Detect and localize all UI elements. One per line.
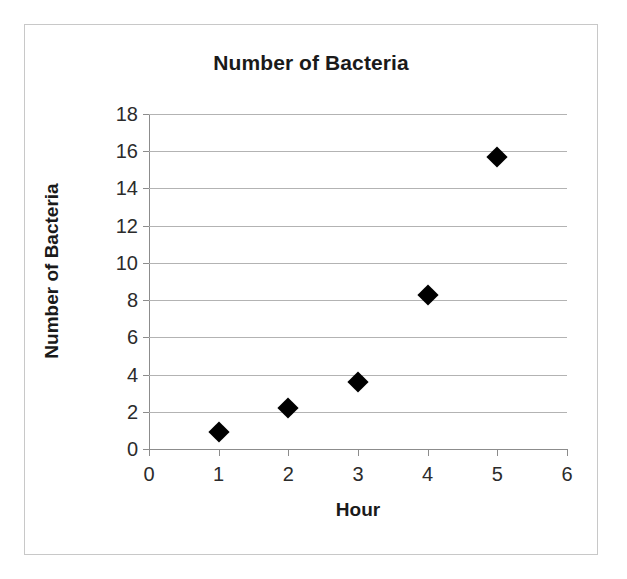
x-tick	[428, 449, 429, 456]
gridline	[149, 412, 567, 413]
y-tick	[143, 412, 149, 413]
y-tick-label: 10	[116, 251, 138, 274]
gridline	[149, 263, 567, 264]
gridline	[149, 300, 567, 301]
x-tick-label: 3	[352, 463, 363, 486]
x-tick	[497, 449, 498, 456]
y-tick-label: 14	[116, 177, 138, 200]
x-axis-title: Hour	[149, 499, 567, 521]
y-tick	[143, 300, 149, 301]
x-tick	[288, 449, 289, 456]
y-tick	[143, 114, 149, 115]
chart-figure: Number of Bacteria Number of Bacteria Ho…	[24, 24, 598, 555]
y-axis-line	[149, 114, 150, 449]
chart-title: Number of Bacteria	[25, 51, 597, 75]
gridline	[149, 337, 567, 338]
y-tick-label: 4	[127, 363, 138, 386]
data-point-marker	[487, 146, 508, 167]
gridline	[149, 151, 567, 152]
y-tick-label: 18	[116, 103, 138, 126]
x-tick-label: 2	[283, 463, 294, 486]
y-tick-label: 6	[127, 326, 138, 349]
gridline	[149, 114, 567, 115]
data-point-marker	[417, 284, 438, 305]
x-tick	[219, 449, 220, 456]
y-tick-label: 16	[116, 140, 138, 163]
x-tick	[149, 449, 150, 456]
y-tick-label: 0	[127, 438, 138, 461]
data-point-marker	[278, 397, 299, 418]
y-tick	[143, 263, 149, 264]
x-tick	[358, 449, 359, 456]
y-tick	[143, 375, 149, 376]
y-tick	[143, 188, 149, 189]
x-tick	[567, 449, 568, 456]
y-tick	[143, 226, 149, 227]
y-tick-label: 8	[127, 289, 138, 312]
gridline	[149, 188, 567, 189]
x-tick-label: 4	[422, 463, 433, 486]
y-axis-title: Number of Bacteria	[41, 161, 63, 381]
plot-area: 024681012141618 0123456	[149, 114, 567, 449]
data-point-marker	[208, 422, 229, 443]
x-tick-label: 1	[213, 463, 224, 486]
y-tick-label: 12	[116, 214, 138, 237]
x-tick-label: 0	[143, 463, 154, 486]
y-tick	[143, 151, 149, 152]
x-tick-label: 6	[561, 463, 572, 486]
x-tick-label: 5	[492, 463, 503, 486]
y-tick-label: 2	[127, 400, 138, 423]
gridline	[149, 226, 567, 227]
y-tick	[143, 337, 149, 338]
